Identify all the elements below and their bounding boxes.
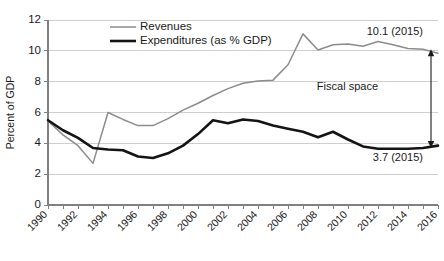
legend-label-2: Expenditures (as % GDP) bbox=[140, 34, 272, 46]
y-axis-title: Percent of GDP bbox=[4, 76, 16, 150]
x-tick-label: 2014 bbox=[384, 208, 409, 233]
x-tick-label: 1998 bbox=[144, 208, 169, 233]
y-tick-label: 2 bbox=[35, 167, 41, 179]
fiscal-space-label: Fiscal space bbox=[317, 80, 378, 92]
y-tick-label: 10 bbox=[28, 44, 41, 56]
annotations-group: 10.1 (2015)3.7 (2015)Fiscal space bbox=[317, 25, 423, 163]
y-tick-labels-group: 024681012 bbox=[28, 13, 41, 210]
legend-label-1: Revenues bbox=[140, 20, 192, 32]
x-tick-label: 1992 bbox=[54, 208, 79, 233]
x-tick-label: 2016 bbox=[414, 208, 439, 233]
x-tick-label: 1996 bbox=[114, 208, 139, 233]
x-tick-label: 1990 bbox=[24, 208, 49, 233]
y-tick-label: 6 bbox=[35, 106, 41, 118]
y-tick-label: 12 bbox=[28, 13, 41, 25]
x-tick-label: 2010 bbox=[324, 208, 349, 233]
x-tick-label: 2000 bbox=[174, 208, 199, 233]
series-line-revenues bbox=[48, 34, 438, 164]
x-tick-label: 2004 bbox=[234, 208, 259, 233]
x-tick-label: 2008 bbox=[294, 208, 319, 233]
revenues-endpoint-label: 10.1 (2015) bbox=[367, 25, 423, 37]
x-tick-label: 2006 bbox=[264, 208, 289, 233]
line-chart: 024681012 199019921994199619982000200220… bbox=[0, 0, 444, 261]
x-tick-label: 1994 bbox=[84, 208, 109, 233]
fiscal-space-arrow-group bbox=[428, 49, 434, 148]
chart-container: 024681012 199019921994199619982000200220… bbox=[0, 0, 444, 261]
y-tick-label: 4 bbox=[35, 136, 42, 148]
x-tick-label: 2012 bbox=[354, 208, 379, 233]
x-tick-labels-group: 1990199219941996199820002002200420062008… bbox=[24, 208, 439, 233]
x-tick-label: 2002 bbox=[204, 208, 229, 233]
chart-legend: RevenuesExpenditures (as % GDP) bbox=[110, 20, 272, 46]
data-series-group bbox=[48, 34, 438, 164]
expenditures-endpoint-label: 3.7 (2015) bbox=[373, 151, 423, 163]
y-tick-label: 8 bbox=[35, 75, 41, 87]
